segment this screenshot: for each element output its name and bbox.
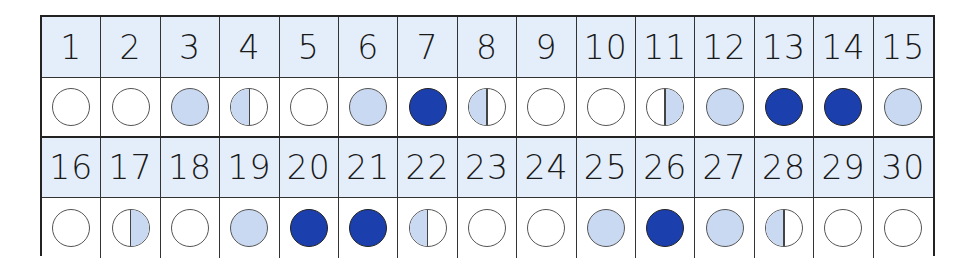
- empty-circle-icon: [587, 88, 625, 126]
- day-number: 4: [238, 31, 260, 64]
- day-number: 17: [109, 151, 153, 184]
- half-fill: [410, 210, 428, 246]
- light-circle-icon: [884, 88, 922, 126]
- day-marker-cell: [161, 198, 220, 258]
- day-marker-cell: [42, 198, 101, 258]
- day-marker-cell: [814, 78, 873, 138]
- light-circle-icon: [230, 209, 268, 247]
- day-number: 1: [60, 31, 82, 64]
- day-marker-cell: [398, 78, 457, 138]
- day-number-cell: 12: [695, 17, 754, 78]
- day-number-cell: 18: [161, 138, 220, 198]
- half-fill: [231, 89, 249, 125]
- day-chart-grid: 1234567891011121314151617181920212223242…: [40, 15, 935, 256]
- circle-divider: [664, 89, 666, 125]
- day-number-cell: 1: [42, 17, 101, 78]
- empty-circle-icon: [171, 209, 209, 247]
- day-number: 16: [49, 151, 93, 184]
- day-marker-cell: [42, 78, 101, 138]
- half-fill: [665, 89, 683, 125]
- day-number: 19: [227, 151, 271, 184]
- day-marker-cell: [101, 78, 160, 138]
- day-number: 24: [524, 151, 568, 184]
- day-number: 5: [298, 31, 320, 64]
- dark-circle-icon: [824, 88, 862, 126]
- day-number-cell: 21: [339, 138, 398, 198]
- day-number-cell: 15: [874, 17, 933, 78]
- day-number: 9: [535, 31, 557, 64]
- day-number-cell: 25: [577, 138, 636, 198]
- day-marker-cell: [458, 198, 517, 258]
- day-marker-cell: [874, 78, 933, 138]
- circle-divider: [783, 210, 785, 246]
- left-half-circle-icon: [230, 88, 268, 126]
- day-number-cell: 5: [280, 17, 339, 78]
- day-number-cell: 26: [636, 138, 695, 198]
- half-fill: [469, 89, 487, 125]
- half-fill: [766, 210, 784, 246]
- day-number: 3: [179, 31, 201, 64]
- circle-divider: [249, 89, 251, 125]
- light-circle-icon: [171, 88, 209, 126]
- circle-divider: [427, 210, 429, 246]
- day-number-cell: 11: [636, 17, 695, 78]
- day-marker-cell: [161, 78, 220, 138]
- dark-circle-icon: [349, 209, 387, 247]
- day-number: 10: [584, 31, 628, 64]
- day-marker-cell: [339, 78, 398, 138]
- day-number: 2: [120, 31, 142, 64]
- day-number-cell: 29: [814, 138, 873, 198]
- day-marker-cell: [636, 78, 695, 138]
- day-marker-cell: [220, 198, 279, 258]
- day-marker-cell: [695, 198, 754, 258]
- day-marker-cell: [339, 198, 398, 258]
- day-marker-cell: [695, 78, 754, 138]
- day-number-cell: 3: [161, 17, 220, 78]
- day-number: 7: [417, 31, 439, 64]
- day-marker-cell: [280, 78, 339, 138]
- day-number: 23: [465, 151, 509, 184]
- day-number-cell: 2: [101, 17, 160, 78]
- light-circle-icon: [706, 209, 744, 247]
- day-marker-cell: [755, 78, 814, 138]
- day-number: 11: [643, 31, 687, 64]
- day-number-cell: 24: [517, 138, 576, 198]
- empty-circle-icon: [52, 209, 90, 247]
- day-number-cell: 9: [517, 17, 576, 78]
- day-number-cell: 16: [42, 138, 101, 198]
- dark-circle-icon: [646, 209, 684, 247]
- day-marker-cell: [101, 198, 160, 258]
- day-number: 15: [881, 31, 925, 64]
- day-number-cell: 22: [398, 138, 457, 198]
- day-number-cell: 7: [398, 17, 457, 78]
- right-half-circle-icon: [646, 88, 684, 126]
- day-number-cell: 13: [755, 17, 814, 78]
- circle-divider: [130, 210, 132, 246]
- day-marker-cell: [398, 198, 457, 258]
- day-number: 27: [703, 151, 747, 184]
- day-number: 30: [881, 151, 925, 184]
- right-half-circle-icon: [112, 209, 150, 247]
- left-half-circle-icon: [765, 209, 803, 247]
- empty-circle-icon: [468, 209, 506, 247]
- light-circle-icon: [349, 88, 387, 126]
- day-marker-cell: [280, 198, 339, 258]
- empty-circle-icon: [824, 209, 862, 247]
- day-number-cell: 28: [755, 138, 814, 198]
- empty-circle-icon: [52, 88, 90, 126]
- empty-circle-icon: [112, 88, 150, 126]
- left-half-circle-icon: [468, 88, 506, 126]
- day-number: 21: [346, 151, 390, 184]
- dark-circle-icon: [409, 88, 447, 126]
- day-number-cell: 23: [458, 138, 517, 198]
- day-marker-cell: [755, 198, 814, 258]
- day-number-cell: 10: [577, 17, 636, 78]
- day-number-cell: 8: [458, 17, 517, 78]
- day-marker-cell: [517, 78, 576, 138]
- day-number: 22: [406, 151, 450, 184]
- empty-circle-icon: [290, 88, 328, 126]
- day-number: 12: [703, 31, 747, 64]
- day-number: 29: [821, 151, 865, 184]
- day-marker-cell: [814, 198, 873, 258]
- day-marker-cell: [577, 78, 636, 138]
